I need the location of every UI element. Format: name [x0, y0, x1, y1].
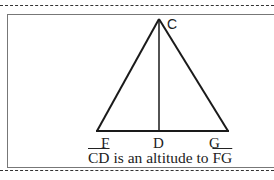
- figure-caption: CD is an altitude to FG: [88, 150, 232, 166]
- segment-fg: FG: [212, 149, 232, 166]
- caption-text: is an altitude to: [110, 149, 213, 166]
- bottom-dashed-border: [0, 170, 274, 171]
- side-cg: [159, 19, 228, 131]
- segment-cd: CD: [88, 149, 110, 166]
- side-cf: [97, 19, 159, 131]
- vertex-label-c: C: [167, 17, 177, 31]
